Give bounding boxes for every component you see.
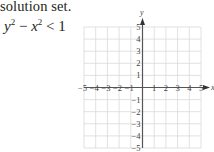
y-tick-label: −1 — [131, 95, 140, 105]
x-tick-label: 5 — [199, 83, 203, 93]
y-tick-label: 5 — [136, 22, 140, 32]
y-tick-label: 2 — [136, 58, 140, 68]
y-tick-label: −5 — [131, 143, 140, 152]
x-tick-label: −1 — [125, 83, 134, 93]
y-axis-label: y — [139, 8, 144, 17]
y-tick-label: −4 — [131, 131, 141, 141]
x-tick-label: −2 — [113, 83, 122, 93]
y-tick-label: −3 — [131, 119, 140, 129]
x-tick-label: −3 — [101, 83, 110, 93]
y-tick-label: 1 — [136, 70, 140, 80]
x-tick-label: 1 — [152, 83, 156, 93]
x-axis-label: x — [210, 83, 214, 92]
y-axis — [140, 18, 145, 148]
y-tick-label: −2 — [131, 107, 140, 117]
y-tick-label: 3 — [136, 46, 140, 56]
x-tick-label: 4 — [187, 83, 192, 93]
x-tick-label: −4 — [90, 83, 100, 93]
x-axis-arrow-icon — [203, 85, 210, 90]
x-tick-label: −5 — [78, 83, 87, 93]
x-tick-label: 3 — [175, 83, 179, 93]
coordinate-grid[interactable]: x y −5−4−3−2−112345 54321−1−2−3−4−5 — [0, 0, 214, 152]
y-axis-arrow-icon — [140, 18, 145, 25]
x-tick-label: 2 — [164, 83, 168, 93]
